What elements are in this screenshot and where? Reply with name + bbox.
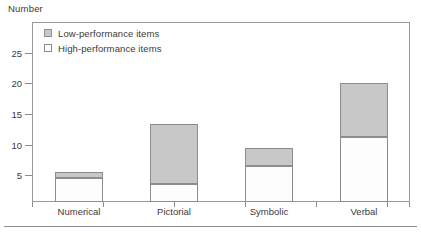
bar-verbal-low-segment xyxy=(340,83,388,137)
bar-verbal xyxy=(340,83,388,202)
bar-numerical xyxy=(55,172,103,202)
y-tick-label-10: 10 xyxy=(11,140,22,151)
x-tick-3 xyxy=(245,202,246,207)
bottom-divider xyxy=(4,226,417,227)
x-tick-4 xyxy=(316,202,317,207)
y-tick-label-20: 20 xyxy=(11,78,22,89)
low-performance-swatch-icon xyxy=(44,29,52,37)
chart-figure: Number 25 20 15 10 5 xyxy=(0,0,421,233)
legend-item-high-performance: High-performance items xyxy=(44,42,162,54)
y-tick-label-5: 5 xyxy=(17,170,22,181)
x-tick-0 xyxy=(32,202,33,207)
legend-label-high-performance: High-performance items xyxy=(58,43,162,54)
bar-pictorial-low-segment xyxy=(150,124,198,184)
x-tick-1 xyxy=(103,202,104,207)
chart-legend: Low-performance items High-performance i… xyxy=(44,27,162,57)
legend-label-low-performance: Low-performance items xyxy=(58,28,159,39)
bar-pictorial-high-segment xyxy=(150,184,198,202)
y-axis-title: Number xyxy=(8,3,43,14)
x-label-numerical: Numerical xyxy=(58,206,101,217)
x-label-symbolic: Symbolic xyxy=(250,206,289,217)
x-tick-5 xyxy=(387,202,388,207)
y-tick-label-25: 25 xyxy=(11,48,22,59)
x-label-verbal: Verbal xyxy=(351,206,378,217)
bar-numerical-high-segment xyxy=(55,178,103,202)
legend-item-low-performance: Low-performance items xyxy=(44,27,162,39)
x-tick-6 xyxy=(409,202,410,207)
bar-symbolic xyxy=(245,148,293,202)
x-label-pictorial: Pictorial xyxy=(157,206,191,217)
high-performance-swatch-icon xyxy=(44,44,52,52)
bar-symbolic-high-segment xyxy=(245,166,293,202)
bar-pictorial xyxy=(150,124,198,202)
y-tick-label-15: 15 xyxy=(11,109,22,120)
bar-symbolic-low-segment xyxy=(245,148,293,166)
bar-verbal-high-segment xyxy=(340,137,388,202)
